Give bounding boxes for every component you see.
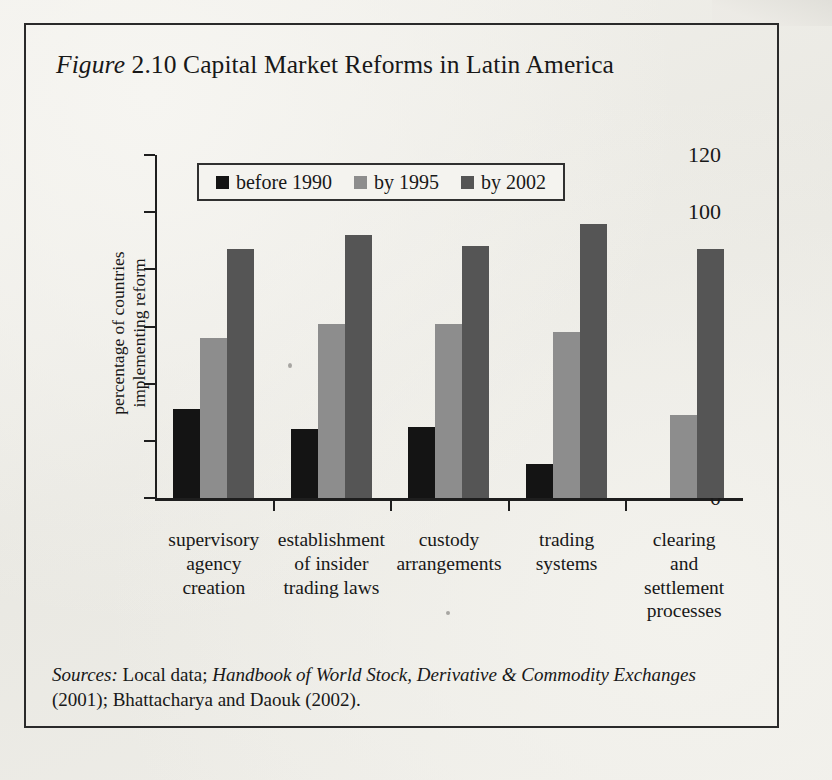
category-label-line: trading laws	[265, 576, 399, 600]
bar	[227, 249, 254, 498]
x-axis-category-labels: supervisoryagencycreationestablishmentof…	[155, 528, 755, 653]
legend-item: by 2002	[461, 171, 546, 194]
category-label-line: trading	[500, 528, 634, 552]
x-axis-category-label: establishmentof insidertrading laws	[265, 528, 399, 599]
bar	[435, 324, 462, 498]
source-italic-title: Handbook of World Stock, Derivative & Co…	[212, 664, 696, 685]
figure-label: Figure	[56, 50, 125, 79]
category-label-line: processes	[617, 599, 751, 623]
y-axis-title-line2: implementing reform	[129, 259, 149, 408]
figure-title-text: Capital Market Reforms in Latin America	[183, 50, 614, 79]
legend-label: before 1990	[236, 171, 332, 194]
figure-title: Figure 2.10 Capital Market Reforms in La…	[56, 50, 614, 80]
category-label-line: creation	[147, 576, 281, 600]
y-tick-label: 120	[688, 142, 721, 168]
x-tick-mark	[625, 498, 627, 511]
category-label-line: settlement	[617, 576, 751, 600]
legend-label: by 2002	[481, 171, 546, 194]
x-axis-line	[155, 498, 743, 501]
category-label-line: and	[617, 552, 751, 576]
chart-legend: before 1990 by 1995 by 2002	[197, 163, 565, 201]
source-prefix: Sources:	[52, 664, 118, 685]
bar	[697, 249, 724, 498]
y-axis-title: percentage of countries implementing ref…	[108, 252, 149, 415]
legend-square-icon	[354, 176, 367, 189]
legend-square-icon	[461, 176, 474, 189]
category-label-line: of insider	[265, 552, 399, 576]
bar	[200, 338, 227, 498]
y-tick-mark	[144, 154, 155, 156]
y-tick-label: 100	[688, 199, 721, 225]
legend-square-icon	[216, 176, 229, 189]
source-text-2: (2001); Bhattacharya and Daouk (2002).	[52, 689, 361, 710]
category-label-line: supervisory	[147, 528, 281, 552]
source-text-1: Local data;	[118, 664, 212, 685]
category-label-line: systems	[500, 552, 634, 576]
bar	[670, 415, 697, 498]
bar	[408, 427, 435, 498]
category-label-line: establishment	[265, 528, 399, 552]
bar	[173, 409, 200, 498]
category-label-line: clearing	[617, 528, 751, 552]
bar	[580, 224, 607, 498]
x-tick-mark	[508, 498, 510, 511]
legend-item: by 1995	[354, 171, 439, 194]
legend-label: by 1995	[374, 171, 439, 194]
bar	[462, 246, 489, 498]
category-label-line: agency	[147, 552, 281, 576]
y-tick-mark	[144, 326, 155, 328]
y-tick-mark	[144, 211, 155, 213]
y-tick-mark	[144, 268, 155, 270]
bar	[553, 332, 580, 498]
figure-number: 2.10	[132, 50, 177, 79]
x-tick-mark	[273, 498, 275, 511]
y-axis-line	[155, 155, 157, 498]
y-tick-mark	[144, 497, 155, 499]
x-axis-category-label: tradingsystems	[500, 528, 634, 576]
source-note: Sources: Local data; Handbook of World S…	[52, 662, 742, 713]
category-label-line: custody	[382, 528, 516, 552]
bar	[345, 235, 372, 498]
legend-item: before 1990	[216, 171, 332, 194]
chart-plot-area: percentage of countries implementing ref…	[155, 155, 743, 498]
y-tick-mark	[144, 383, 155, 385]
x-axis-category-label: supervisoryagencycreation	[147, 528, 281, 599]
x-axis-category-label: clearingandsettlementprocesses	[617, 528, 751, 623]
y-axis-title-line1: percentage of countries	[108, 252, 128, 415]
bar	[318, 324, 345, 498]
bar	[291, 429, 318, 498]
y-tick-mark	[144, 440, 155, 442]
bar	[526, 464, 553, 498]
x-axis-category-label: custodyarrangements	[382, 528, 516, 576]
x-tick-mark	[390, 498, 392, 511]
category-label-line: arrangements	[382, 552, 516, 576]
